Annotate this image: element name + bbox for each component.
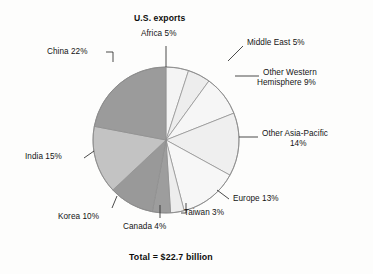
slice-label-other-western-hemisphere-line1: Other Western xyxy=(263,68,317,78)
leader-line-middle-east xyxy=(228,46,243,61)
chart-title: U.S. exports xyxy=(134,13,185,23)
slice-label-canada: Canada 4% xyxy=(123,222,166,232)
slice-label-other-asia-pacific-line2: 14% xyxy=(290,139,307,149)
slice-label-other-asia-pacific-line1: Other Asia-Pacific xyxy=(262,129,328,139)
chart-footnote: Total = $22.7 billion xyxy=(129,252,213,262)
pie-chart-figure: U.S. exports Africa 5% Middle East 5% Ot… xyxy=(0,0,373,274)
slice-label-taiwan: Taiwan 3% xyxy=(184,208,224,218)
leader-line-europe xyxy=(217,190,229,199)
pie-slices-group xyxy=(93,67,239,213)
slice-label-europe: Europe 13% xyxy=(233,194,279,204)
slice-label-china: China 22% xyxy=(47,47,88,57)
slice-label-korea: Korea 10% xyxy=(58,212,99,222)
slice-label-africa: Africa 5% xyxy=(141,29,177,39)
leader-line-korea xyxy=(112,196,117,208)
leader-line-china xyxy=(106,52,113,62)
leader-line-india xyxy=(84,151,94,158)
slice-label-middle-east: Middle East 5% xyxy=(247,38,305,48)
slice-label-india: India 15% xyxy=(25,152,62,162)
slice-label-other-western-hemisphere-line2: Hemisphere 9% xyxy=(257,78,316,88)
